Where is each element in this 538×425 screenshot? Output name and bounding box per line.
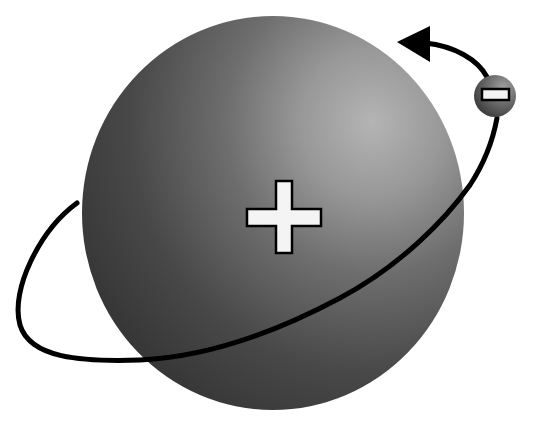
arrowhead-icon bbox=[397, 26, 430, 62]
electron: Electron bbox=[474, 75, 516, 117]
minus-sign-icon bbox=[482, 89, 509, 100]
atom-diagram: Nucleus Electron bbox=[0, 0, 538, 425]
orbit-arrow-segment bbox=[425, 43, 487, 77]
